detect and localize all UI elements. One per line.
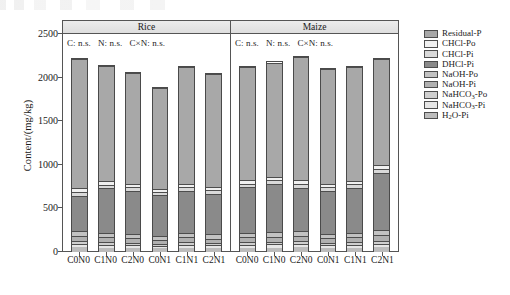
bar-segment-residual-p xyxy=(126,73,141,184)
bar-slot xyxy=(314,34,341,252)
bar-slot xyxy=(261,34,288,252)
stacked-bar[interactable] xyxy=(320,68,337,252)
y-axis-tick-labels: 25002000150010005000 xyxy=(20,0,58,295)
bar-segment-dhcl-pi xyxy=(240,187,255,233)
x-tick-label: C2N0 xyxy=(119,255,146,271)
bar-segment-dhcl-pi xyxy=(321,191,336,234)
bar-segment-dhcl-pi xyxy=(267,184,282,232)
stacked-bar[interactable] xyxy=(125,72,142,252)
bar-segment-residual-p xyxy=(321,69,336,184)
x-tick-label: C2N1 xyxy=(369,255,396,271)
stacked-bar[interactable] xyxy=(98,65,115,252)
x-label-group-maize: C0N0C1N0C2N0C0N1C1N1C2N1 xyxy=(231,255,400,271)
legend-swatch-naoh-pi xyxy=(424,81,438,89)
legend-swatch-h2o-pi xyxy=(424,112,438,120)
legend-item-chcl-pi[interactable]: CHCl-Pi xyxy=(424,49,508,59)
x-tick-label: C1N0 xyxy=(261,255,288,271)
legend-label: NaOH-Pi xyxy=(442,80,476,89)
bar-segment-residual-p xyxy=(206,74,221,187)
legend-swatch-dhcl-pi xyxy=(424,61,438,69)
bar-segment-dhcl-pi xyxy=(153,195,168,236)
bar-segment-residual-p xyxy=(99,66,114,181)
legend-item-dhcl-pi[interactable]: DHCl-Pi xyxy=(424,60,508,70)
bar-slot xyxy=(200,34,227,252)
y-tick-mark xyxy=(58,164,62,165)
legend-label: CHCl-Po xyxy=(442,39,476,48)
bar-slot xyxy=(120,34,147,252)
legend-item-naoh-pi[interactable]: NaOH-Pi xyxy=(424,80,508,90)
stacked-bar[interactable] xyxy=(71,58,88,252)
stacked-bar[interactable] xyxy=(293,56,310,252)
bar-segment-residual-p xyxy=(294,57,309,180)
legend-swatch-chcl-pi xyxy=(424,50,438,58)
legend-label: Residual-P xyxy=(442,29,482,38)
bar-segment-residual-p xyxy=(347,67,362,181)
panels-container: C: n.s.N: n.s.C×N: n.s.C: n.s.N: n.s.C×N… xyxy=(63,34,398,252)
y-tick-label: 1000 xyxy=(38,158,58,169)
bar-segment-dhcl-pi xyxy=(206,194,221,235)
y-tick-mark xyxy=(58,251,62,252)
stacked-bar[interactable] xyxy=(152,87,169,252)
x-axis-tick-labels: C0N0C1N0C2N0C0N1C1N1C2N1C0N0C1N0C2N0C0N1… xyxy=(62,255,399,271)
legend-item-naoh-po[interactable]: NaOH-Po xyxy=(424,70,508,80)
bar-segment-dhcl-pi xyxy=(72,196,87,232)
stacked-bar[interactable] xyxy=(205,73,222,252)
panel-header-maize: Maize xyxy=(230,21,398,33)
y-tick-mark xyxy=(58,77,62,78)
y-tick-mark xyxy=(58,207,62,208)
bar-group xyxy=(63,34,230,252)
bar-segment-residual-p xyxy=(240,67,255,180)
legend-label: H2O-Pi xyxy=(442,111,469,120)
bar-segment-dhcl-pi xyxy=(374,173,389,230)
legend-swatch-nahco3-pi xyxy=(424,101,438,109)
panel-maize: C: n.s.N: n.s.C×N: n.s. xyxy=(230,34,398,252)
legend-item-residual-p[interactable]: Residual-P xyxy=(424,29,508,39)
bar-segment-residual-p xyxy=(267,63,282,177)
x-tick-label: C2N0 xyxy=(288,255,315,271)
stacked-bar[interactable] xyxy=(178,66,195,252)
stacked-bar[interactable] xyxy=(266,61,283,252)
bar-segment-residual-p xyxy=(153,88,168,189)
x-tick-label: C0N0 xyxy=(65,255,92,271)
legend: Residual-PCHCl-PoCHCl-PiDHCl-PiNaOH-PoNa… xyxy=(424,29,508,121)
legend-label: NaHCO3-Pi xyxy=(442,101,485,110)
legend-swatch-chcl-po xyxy=(424,40,438,48)
legend-item-nahco3-po[interactable]: NaHCO3-Po xyxy=(424,90,508,100)
panel-header-rice: Rice xyxy=(63,21,230,33)
stacked-bar[interactable] xyxy=(346,66,363,252)
plot-area: Rice Maize C: n.s.N: n.s.C×N: n.s.C: n.s… xyxy=(62,20,399,252)
figure-root: Content/(mg/kg) 25002000150010005000 Ric… xyxy=(0,0,510,295)
legend-item-h2o-pi[interactable]: H2O-Pi xyxy=(424,111,508,121)
x-tick-label: C1N1 xyxy=(342,255,369,271)
stacked-bar[interactable] xyxy=(239,66,256,252)
y-tick-mark xyxy=(58,33,62,34)
bar-slot xyxy=(66,34,93,252)
legend-swatch-nahco3-po xyxy=(424,91,438,99)
x-tick-label: C0N1 xyxy=(146,255,173,271)
x-tick-label: C1N0 xyxy=(92,255,119,271)
x-tick-label: C1N1 xyxy=(173,255,200,271)
bar-segment-dhcl-pi xyxy=(294,188,309,231)
bar-segment-dhcl-pi xyxy=(347,188,362,233)
x-tick-label: C0N0 xyxy=(234,255,261,271)
bar-group xyxy=(231,34,398,252)
x-tick-label: C2N1 xyxy=(200,255,227,271)
bar-slot xyxy=(368,34,395,252)
panel-header-strip: Rice Maize xyxy=(63,21,398,34)
legend-item-nahco3-pi[interactable]: NaHCO3-Pi xyxy=(424,100,508,110)
scan-artifact-band xyxy=(0,0,510,10)
bar-slot xyxy=(146,34,173,252)
bar-segment-dhcl-pi xyxy=(126,191,141,234)
x-tick-label: C0N1 xyxy=(315,255,342,271)
panel-rice: C: n.s.N: n.s.C×N: n.s. xyxy=(63,34,230,252)
y-tick-mark xyxy=(58,120,62,121)
y-tick-label: 2500 xyxy=(38,28,58,39)
legend-item-chcl-po[interactable]: CHCl-Po xyxy=(424,39,508,49)
bar-slot xyxy=(234,34,261,252)
bar-slot xyxy=(173,34,200,252)
bar-segment-residual-p xyxy=(72,59,87,188)
legend-label: CHCl-Pi xyxy=(442,50,474,59)
stacked-bar[interactable] xyxy=(373,58,390,252)
bar-slot xyxy=(341,34,368,252)
y-tick-label: 1500 xyxy=(38,115,58,126)
